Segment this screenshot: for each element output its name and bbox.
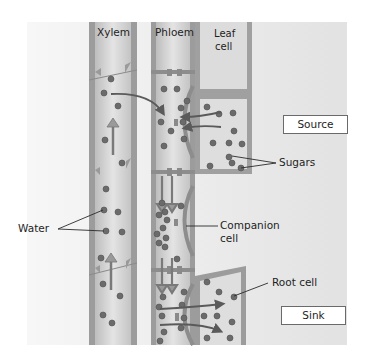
source-box: Source — [283, 115, 348, 134]
water-label: Water — [18, 222, 49, 235]
companion-cell-label-line2: cell — [220, 232, 238, 245]
sink-box: Sink — [281, 306, 346, 325]
phloem-label: Phloem — [155, 26, 194, 39]
sugars-label: Sugars — [279, 156, 315, 169]
source-cell — [195, 94, 252, 174]
xylem-label: Xylem — [97, 26, 130, 39]
companion-cell-label-line1: Companion — [220, 219, 280, 232]
phloem-tube — [151, 22, 195, 345]
phloem-transport-diagram: Xylem Phloem Leaf cell Source Sugars Wat… — [0, 0, 386, 361]
xylem-tube — [89, 22, 137, 345]
root-cell-label: Root cell — [272, 276, 317, 289]
leaf-cell-label-line1: Leaf — [214, 27, 235, 40]
leaf-cell-label-line2: cell — [215, 40, 232, 53]
